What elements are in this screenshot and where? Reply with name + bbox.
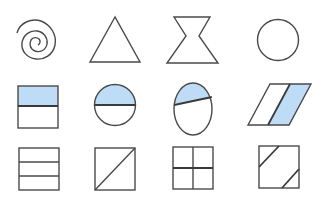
square-thirds-shape (19, 148, 59, 190)
oval-unequal-shaded-shape (174, 83, 212, 135)
triangle-shape (90, 17, 140, 62)
circle-half-shaded-shape (95, 85, 136, 126)
shapes-figure (0, 0, 326, 200)
circle-shape (258, 20, 299, 61)
hourglass-shape (167, 17, 218, 63)
square-half-shaded-shape (18, 86, 58, 128)
spiral-shape (17, 20, 55, 59)
square-diagonal-shape (95, 148, 135, 190)
parallelogram-half-shaded-shape (248, 84, 311, 125)
square-corner-cuts-shape (259, 146, 299, 188)
square-quarters-shape (173, 147, 213, 189)
